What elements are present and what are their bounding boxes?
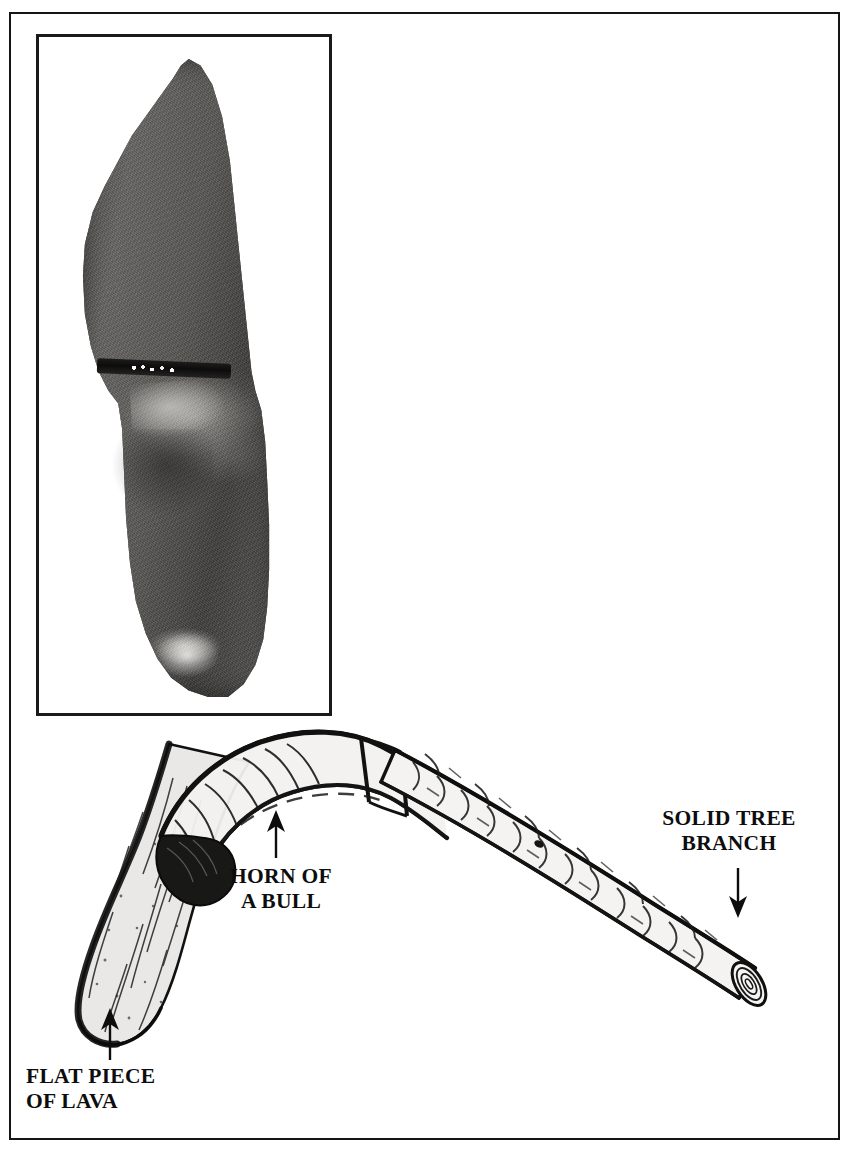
label-solid-tree-branch: SOLID TREE BRANCH (634, 806, 824, 856)
photograph-frame (36, 34, 332, 716)
label-flat-piece-of-lava: FLAT PIECE OF LAVA (26, 1064, 216, 1114)
photograph-image (39, 37, 329, 713)
rock-highlight-upper (129, 378, 229, 441)
lava-rock-photo-subject (79, 59, 275, 697)
rock-highlight-lower (155, 633, 219, 677)
tree-branch-shape (381, 750, 773, 1011)
rock-shadow-seam (109, 429, 213, 519)
label-horn-of-a-bull: HORN OF A BULL (206, 864, 356, 914)
arrow-branch (729, 868, 747, 918)
arrow-horn (267, 810, 285, 858)
